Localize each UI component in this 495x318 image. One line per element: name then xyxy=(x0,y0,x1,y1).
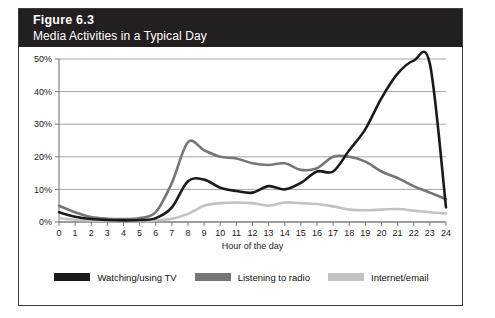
legend-swatch-internet xyxy=(328,273,364,281)
figure-header-band: Figure 6.3 Media Activities in a Typical… xyxy=(19,9,462,47)
series-line-watching-using-tv xyxy=(59,52,446,221)
chart-body: 0%10%20%30%40%50%01234567891011121314151… xyxy=(19,47,462,305)
xtick-label: 16 xyxy=(312,228,322,238)
xtick-label: 17 xyxy=(328,228,338,238)
xtick-label: 20 xyxy=(376,228,386,238)
plot-area: 0%10%20%30%40%50%01234567891011121314151… xyxy=(19,47,464,262)
figure-page: Figure 6.3 Media Activities in a Typical… xyxy=(0,0,495,318)
xtick-label: 24 xyxy=(441,228,451,238)
ytick-label: 0% xyxy=(39,217,52,227)
xtick-label: 10 xyxy=(215,228,225,238)
xtick-label: 23 xyxy=(425,228,435,238)
figure-frame: Figure 6.3 Media Activities in a Typical… xyxy=(18,8,463,306)
series-line-listening-to-radio xyxy=(59,141,446,219)
xtick-label: 0 xyxy=(56,228,61,238)
x-axis-title: Hour of the day xyxy=(222,241,284,251)
ytick-label: 10% xyxy=(34,185,52,195)
figure-number: Figure 6.3 xyxy=(33,13,462,28)
legend-label-tv: Watching/using TV xyxy=(97,272,176,283)
legend-swatch-tv xyxy=(54,273,90,281)
legend-label-internet: Internet/email xyxy=(371,272,429,283)
ytick-label: 20% xyxy=(34,152,52,162)
ytick-label: 50% xyxy=(34,54,52,64)
xtick-label: 11 xyxy=(232,228,241,238)
xtick-label: 13 xyxy=(264,228,274,238)
xtick-label: 3 xyxy=(105,228,110,238)
xtick-label: 8 xyxy=(185,228,190,238)
xtick-label: 12 xyxy=(247,228,257,238)
chart-legend: Watching/using TV Listening to radio Int… xyxy=(19,262,464,292)
legend-item-tv: Watching/using TV xyxy=(54,272,176,283)
xtick-label: 14 xyxy=(280,228,290,238)
xtick-label: 1 xyxy=(73,228,78,238)
xtick-label: 2 xyxy=(89,228,94,238)
legend-label-radio: Listening to radio xyxy=(238,272,310,283)
xtick-label: 9 xyxy=(202,228,207,238)
xtick-label: 19 xyxy=(360,228,370,238)
ytick-label: 40% xyxy=(34,87,52,97)
line-chart: 0%10%20%30%40%50%01234567891011121314151… xyxy=(19,47,464,262)
xtick-label: 7 xyxy=(169,228,174,238)
legend-item-radio: Listening to radio xyxy=(195,272,310,283)
legend-item-internet: Internet/email xyxy=(328,272,429,283)
figure-subtitle: Media Activities in a Typical Day xyxy=(33,28,462,44)
xtick-label: 6 xyxy=(153,228,158,238)
xtick-label: 15 xyxy=(296,228,306,238)
legend-swatch-radio xyxy=(195,273,231,281)
xtick-label: 22 xyxy=(409,228,419,238)
xtick-label: 4 xyxy=(121,228,126,238)
xtick-label: 21 xyxy=(393,228,403,238)
xtick-label: 5 xyxy=(137,228,142,238)
xtick-label: 18 xyxy=(344,228,354,238)
ytick-label: 30% xyxy=(34,119,52,129)
